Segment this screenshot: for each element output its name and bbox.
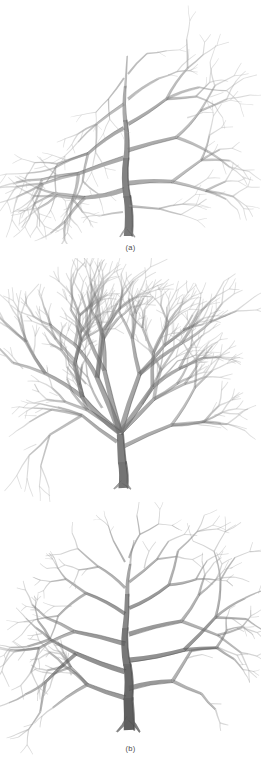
- twig: [180, 49, 187, 51]
- twig: [199, 34, 205, 42]
- twig: [1, 671, 9, 687]
- twig: [66, 273, 71, 282]
- twig: [167, 49, 180, 51]
- twig: [250, 616, 259, 617]
- scaffold-branch: [79, 566, 99, 571]
- limb-shading: [67, 578, 87, 592]
- twig: [182, 194, 195, 204]
- scaffold-branch: [140, 524, 159, 535]
- twig: [236, 309, 257, 311]
- twig: [27, 380, 39, 382]
- twig: [43, 581, 51, 591]
- limb-shading: [66, 684, 86, 697]
- twig: [250, 94, 261, 95]
- twig: [6, 172, 27, 174]
- twig: [35, 631, 39, 640]
- limb-shading: [129, 139, 177, 153]
- twig: [14, 154, 22, 159]
- twig: [226, 78, 244, 91]
- twig: [199, 204, 212, 208]
- twig: [216, 299, 217, 310]
- twig: [218, 390, 222, 406]
- twig: [23, 444, 36, 451]
- twig: [27, 478, 34, 497]
- twig: [17, 588, 26, 591]
- twig: [234, 73, 249, 76]
- trunk-segment: [86, 592, 126, 615]
- twig: [220, 722, 229, 725]
- twig: [215, 709, 221, 723]
- twig: [234, 282, 237, 294]
- twig: [257, 632, 261, 640]
- twig: [27, 729, 30, 744]
- twig: [9, 430, 17, 437]
- scaffold-branch: [157, 556, 177, 560]
- scaffold-branch: [136, 515, 140, 534]
- twig: [244, 208, 254, 210]
- twig: [192, 554, 203, 560]
- twig: [110, 195, 116, 201]
- twig: [25, 208, 34, 227]
- twig: [160, 317, 163, 329]
- twig: [126, 272, 127, 279]
- twig: [217, 42, 229, 46]
- twig: [23, 581, 26, 590]
- twig: [36, 226, 44, 237]
- twig: [221, 126, 233, 128]
- twig: [142, 541, 149, 552]
- twig: [16, 475, 22, 489]
- twig: [226, 580, 233, 586]
- twig: [34, 580, 40, 586]
- limb-shading: [52, 697, 65, 708]
- twig: [105, 168, 109, 179]
- twig: [20, 611, 27, 618]
- twig: [40, 563, 47, 569]
- limb-shading: [77, 652, 126, 670]
- twig: [54, 605, 71, 606]
- twig: [72, 533, 79, 549]
- twig: [60, 548, 78, 555]
- figure-panel-b: (b): [0, 258, 261, 502]
- twig: [65, 565, 79, 571]
- figure-caption-a: (a): [0, 244, 261, 252]
- scaffold-branch: [64, 665, 89, 686]
- trunk-segment: [128, 584, 169, 610]
- scaffold-branch: [52, 697, 67, 709]
- twig: [105, 168, 116, 171]
- twig: [249, 171, 261, 180]
- twig: [79, 273, 84, 282]
- twig: [6, 620, 18, 623]
- twig: [42, 707, 54, 716]
- twig: [197, 199, 206, 206]
- scaffold-branch: [101, 211, 123, 216]
- scaffold-branch: [156, 541, 169, 560]
- twig: [0, 671, 2, 684]
- scaffold-branch: [77, 548, 99, 567]
- twig: [57, 565, 65, 570]
- twig: [172, 525, 182, 531]
- twig: [160, 502, 164, 510]
- twig: [38, 590, 44, 593]
- twig: [38, 392, 47, 401]
- twig: [243, 405, 256, 412]
- twig: [208, 177, 221, 179]
- twig: [257, 630, 261, 633]
- twig: [224, 273, 236, 281]
- twig: [84, 172, 92, 185]
- twig: [235, 577, 249, 583]
- twig: [219, 723, 221, 731]
- twig: [24, 320, 32, 321]
- scaffold-branch: [217, 627, 242, 636]
- twig: [188, 5, 190, 20]
- twig: [21, 606, 27, 611]
- twig: [43, 602, 55, 606]
- twig: [77, 225, 82, 232]
- twig: [38, 284, 41, 294]
- limb-shading: [25, 681, 45, 694]
- twig: [197, 220, 205, 228]
- twig: [172, 318, 173, 332]
- twig: [159, 523, 173, 525]
- twig: [65, 201, 67, 210]
- figure-panel-c: (c): [0, 502, 261, 757]
- twig: [7, 201, 12, 213]
